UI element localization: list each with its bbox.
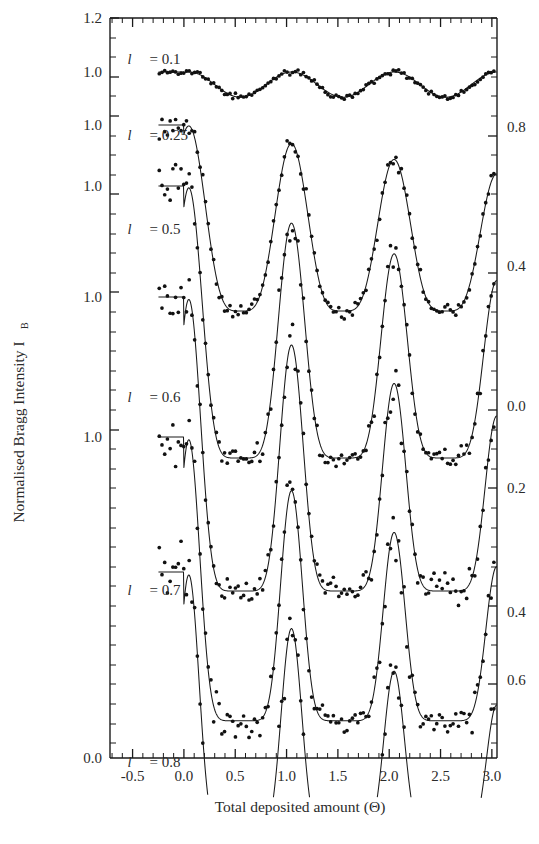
data-point [307, 369, 311, 373]
data-point [193, 222, 197, 226]
data-point [296, 369, 300, 373]
data-point [293, 500, 297, 504]
y-axis-title-subscript: B [19, 322, 30, 329]
data-point [196, 246, 200, 250]
data-point [315, 423, 319, 427]
data-point [440, 716, 444, 720]
data-point [264, 273, 268, 277]
data-point [288, 617, 292, 621]
data-point [359, 455, 363, 459]
data-point [250, 730, 254, 734]
data-point [196, 384, 200, 388]
data-point [351, 590, 355, 594]
data-point [451, 310, 455, 314]
data-point [244, 725, 248, 729]
data-point [193, 338, 197, 342]
data-point [427, 300, 431, 304]
data-point [258, 577, 262, 581]
data-point [380, 474, 384, 478]
data-point [342, 587, 346, 591]
data-point [198, 702, 202, 706]
data-point [166, 294, 170, 298]
data-point [367, 267, 371, 271]
data-point [244, 311, 248, 315]
data-point [400, 167, 404, 171]
data-point [383, 180, 387, 184]
data-point [171, 423, 175, 427]
data-point [429, 457, 433, 461]
data-point [198, 552, 202, 556]
data-point [174, 118, 178, 122]
data-point [253, 451, 257, 455]
data-point [487, 305, 491, 309]
data-point [234, 449, 238, 453]
data-point [318, 573, 322, 577]
data-point [258, 293, 262, 297]
data-point [446, 730, 450, 734]
data-point [462, 300, 466, 304]
data-point [345, 592, 349, 596]
data-point [160, 184, 164, 188]
data-point [283, 697, 287, 701]
data-point [372, 81, 376, 85]
series-symbol: l [127, 51, 131, 67]
data-point [204, 498, 208, 502]
y-tick-label-left: 1.2 [83, 10, 102, 26]
data-point [473, 83, 477, 87]
data-point [487, 192, 491, 196]
data-point [201, 173, 205, 177]
data-point [274, 480, 278, 484]
data-point [359, 586, 363, 590]
data-point [171, 167, 175, 171]
data-point [179, 286, 183, 290]
data-point [171, 312, 175, 316]
data-point [359, 297, 363, 301]
data-point [386, 416, 390, 420]
data-point [185, 442, 189, 446]
data-point [176, 440, 180, 444]
data-point [375, 666, 379, 670]
data-point [468, 451, 472, 455]
x-axis-title: Total deposited amount (Θ) [215, 798, 386, 816]
data-point [370, 420, 374, 424]
data-point [462, 90, 466, 94]
data-point [478, 675, 482, 679]
data-point [277, 288, 281, 292]
data-point [288, 334, 292, 338]
data-point [397, 696, 401, 700]
data-point [280, 557, 284, 561]
y-tick-label-right: 0.8 [507, 119, 526, 135]
data-point [481, 659, 485, 663]
data-point [438, 578, 442, 582]
data-point [272, 524, 276, 528]
data-point [446, 303, 450, 307]
data-point [429, 90, 433, 94]
data-point [185, 119, 189, 123]
data-point [160, 118, 164, 122]
x-tick-label: 0.5 [226, 768, 245, 784]
x-tick-label: 2.0 [380, 768, 399, 784]
data-point [454, 313, 458, 317]
data-point [212, 416, 216, 420]
data-point [342, 97, 346, 101]
data-point [416, 581, 420, 585]
data-point [182, 445, 186, 449]
data-point [269, 675, 273, 679]
data-point [326, 301, 330, 305]
data-point [258, 459, 262, 463]
data-point [215, 690, 219, 694]
data-point [348, 310, 352, 314]
data-point [204, 341, 208, 345]
data-point [421, 290, 425, 294]
data-point [204, 200, 208, 204]
data-point [312, 78, 316, 82]
data-point [394, 246, 398, 250]
data-point [302, 608, 306, 612]
data-point [217, 440, 221, 444]
data-point [481, 508, 485, 512]
data-point [225, 461, 229, 465]
data-point [408, 212, 412, 216]
data-point [174, 163, 178, 167]
data-point [421, 85, 425, 89]
data-point [283, 155, 287, 159]
